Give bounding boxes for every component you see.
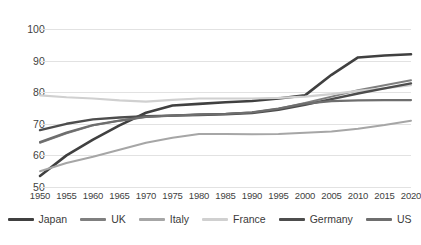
x-tick-label: 2010 xyxy=(348,190,368,201)
plot-area xyxy=(40,29,411,187)
x-tick-label: 1960 xyxy=(83,190,103,201)
legend-label: Germany xyxy=(310,213,353,225)
legend-label: US xyxy=(397,213,412,225)
x-tick-label: 2020 xyxy=(401,190,421,201)
x-tick-label: 1970 xyxy=(136,190,156,201)
legend-label: Italy xyxy=(170,213,189,225)
x-tick-label: 2015 xyxy=(374,190,394,201)
legend-item-japan[interactable]: Japan xyxy=(8,213,68,225)
x-tick-label: 1980 xyxy=(189,190,209,201)
legend-label: France xyxy=(233,213,266,225)
legend-label: Japan xyxy=(39,213,68,225)
legend-item-germany[interactable]: Germany xyxy=(279,213,353,225)
x-tick-label: 2000 xyxy=(295,190,315,201)
x-tick-label: 1975 xyxy=(162,190,182,201)
series-line-italy xyxy=(40,121,411,172)
legend-swatch-icon xyxy=(279,218,305,221)
series-line-us xyxy=(40,100,411,142)
x-tick-label: 1965 xyxy=(109,190,129,201)
legend-swatch-icon xyxy=(202,218,228,221)
gridline xyxy=(40,187,411,188)
series-lines xyxy=(40,29,411,187)
x-tick-label: 1950 xyxy=(30,190,50,201)
legend-swatch-icon xyxy=(366,218,392,221)
x-axis: 1950195519601965197019751980198519901995… xyxy=(40,190,411,206)
legend-item-uk[interactable]: UK xyxy=(80,213,126,225)
x-tick-label: 2005 xyxy=(321,190,341,201)
chart-legend: JapanUKItalyFranceGermanyUS xyxy=(0,213,419,225)
legend-item-italy[interactable]: Italy xyxy=(139,213,189,225)
legend-swatch-icon xyxy=(139,218,165,221)
legend-swatch-icon xyxy=(80,218,106,221)
x-tick-label: 1995 xyxy=(268,190,288,201)
legend-item-france[interactable]: France xyxy=(202,213,266,225)
x-tick-label: 1985 xyxy=(215,190,235,201)
legend-swatch-icon xyxy=(8,218,34,221)
legend-item-us[interactable]: US xyxy=(366,213,412,225)
legend-label: UK xyxy=(111,213,126,225)
x-tick-label: 1955 xyxy=(56,190,76,201)
x-tick-label: 1990 xyxy=(242,190,262,201)
